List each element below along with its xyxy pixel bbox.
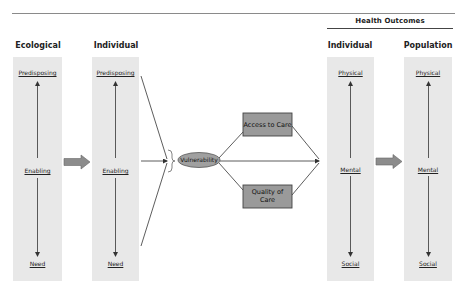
brace — [168, 150, 175, 172]
node-outcome-mental: Mental — [327, 166, 374, 173]
node-population-social: Social — [404, 260, 452, 267]
quality-of-care-label-line1: Quality of — [243, 188, 292, 196]
access-to-care-label: Access to Care — [243, 121, 292, 129]
quality-of-care-label-line2: Care — [243, 196, 292, 204]
vulnerability-label: Vulnerability — [178, 156, 220, 164]
node-outcome-physical: Physical — [327, 69, 374, 76]
node-individual-enabling: Enabling — [92, 167, 139, 174]
node-ecological-predisposing: Predisposing — [13, 69, 62, 76]
node-individual-predisposing: Predisposing — [92, 69, 139, 76]
node-ecological-need: Need — [13, 260, 62, 267]
node-population-mental: Mental — [404, 166, 452, 173]
node-outcome-social: Social — [327, 260, 374, 267]
block-arrow-1 — [64, 155, 90, 169]
node-individual-need: Need — [92, 260, 139, 267]
block-arrow-2 — [376, 155, 402, 169]
node-population-physical: Physical — [404, 69, 452, 76]
node-ecological-enabling: Enabling — [13, 167, 62, 174]
diagram-connectors — [0, 0, 465, 296]
